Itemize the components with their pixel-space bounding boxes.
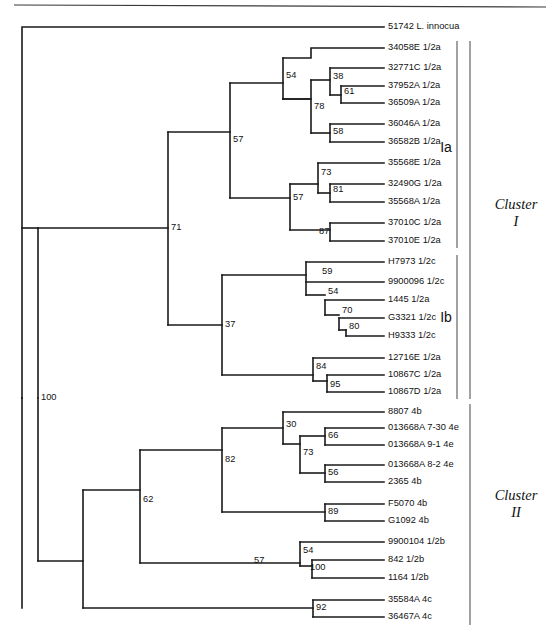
subclade-label-Ia: Ia bbox=[440, 139, 452, 155]
bootstrap-value-3: 78 bbox=[314, 101, 324, 111]
phylogenetic-tree-figure: 51742 L. innocua34058E 1/2a32771C 1/2a37… bbox=[0, 0, 557, 634]
bootstrap-value-27: 100 bbox=[310, 562, 326, 572]
tip-label-t16: H9333 1/2c bbox=[388, 330, 436, 340]
bootstrap-value-21: 73 bbox=[303, 447, 313, 457]
tip-label-t3: 37952A 1/2a bbox=[388, 80, 441, 90]
tip-label-t20: 8807 4b bbox=[388, 406, 422, 416]
tip-label-t4: 36509A 1/2a bbox=[388, 97, 441, 107]
bootstrap-value-2: 61 bbox=[344, 86, 354, 96]
bootstrap-value-25: 62 bbox=[143, 494, 153, 504]
tip-label-t24: 2365 4b bbox=[388, 476, 422, 486]
tip-label-t0: 51742 L. innocua bbox=[388, 21, 460, 31]
tip-label-t22: 013668A 9-1 4e bbox=[388, 439, 454, 449]
tip-label-t25: F5070 4b bbox=[388, 498, 427, 508]
bootstrap-value-28: 57 bbox=[254, 555, 264, 565]
tip-label-t31: 36467A 4c bbox=[388, 611, 432, 621]
bootstrap-value-24: 89 bbox=[328, 506, 338, 516]
tip-label-t19: 10867D 1/2a bbox=[388, 386, 442, 396]
tip-label-t11: 37010E 1/2a bbox=[388, 235, 442, 245]
tip-label-t2: 32771C 1/2a bbox=[388, 62, 442, 72]
tip-label-t21: 013668A 7-30 4e bbox=[388, 422, 459, 432]
tip-label-t15: G3321 1/2c bbox=[388, 312, 436, 322]
bootstrap-value-0: 54 bbox=[286, 70, 296, 80]
tip-label-t30: 35584A 4c bbox=[388, 594, 432, 604]
tip-label-t6: 36582B 1/2a bbox=[388, 136, 442, 146]
tip-label-t9: 35568A 1/2a bbox=[388, 196, 441, 206]
tip-label-t17: 12716E 1/2a bbox=[388, 352, 442, 362]
bootstrap-value-10: 71 bbox=[171, 222, 181, 232]
bootstrap-value-22: 56 bbox=[328, 467, 338, 477]
bootstrap-value-4: 58 bbox=[333, 126, 343, 136]
bootstrap-value-8: 57 bbox=[293, 192, 303, 202]
tip-label-t1: 34058E 1/2a bbox=[388, 42, 442, 52]
bootstrap-value-5: 57 bbox=[233, 134, 243, 144]
bootstrap-value-26: 54 bbox=[303, 545, 313, 555]
tree-canvas: 51742 L. innocua34058E 1/2a32771C 1/2a37… bbox=[0, 0, 557, 634]
tip-label-t26: G1092 4b bbox=[388, 515, 429, 525]
tip-label-t5: 36046A 1/2a bbox=[388, 118, 441, 128]
tip-label-t23: 013668A 8-2 4e bbox=[388, 459, 454, 469]
tip-label-t18: 10867C 1/2a bbox=[388, 369, 442, 379]
bootstrap-value-19: 30 bbox=[286, 419, 296, 429]
tip-label-t7: 35568E 1/2a bbox=[388, 157, 442, 167]
bootstrap-value-17: 95 bbox=[330, 379, 340, 389]
bootstrap-value-1: 38 bbox=[333, 71, 343, 81]
bootstrap-value-16: 84 bbox=[316, 361, 326, 371]
tip-label-t28: 842 1/2b bbox=[388, 554, 424, 564]
bootstrap-value-11: 59 bbox=[322, 266, 332, 276]
bootstrap-value-23: 82 bbox=[225, 454, 235, 464]
tip-label-t14: 1445 1/2a bbox=[388, 294, 430, 304]
bootstrap-value-9: 87 bbox=[319, 226, 329, 236]
bootstrap-value-18: 100 bbox=[41, 392, 57, 402]
bootstrap-value-13: 70 bbox=[342, 305, 352, 315]
bootstrap-value-29: 92 bbox=[316, 602, 326, 612]
subclade-label-Ib: Ib bbox=[440, 309, 452, 325]
cluster-label-word-I: Cluster bbox=[495, 196, 538, 212]
tip-label-t12: H7973 1/2c bbox=[388, 256, 436, 266]
cluster-label-word-II: Cluster bbox=[495, 487, 538, 503]
tip-label-t13: 9900096 1/2c bbox=[388, 276, 445, 286]
bootstrap-value-20: 66 bbox=[328, 430, 338, 440]
tip-label-t29: 1164 1/2b bbox=[388, 572, 429, 582]
bootstrap-value-7: 81 bbox=[333, 184, 343, 194]
tip-label-t8: 32490G 1/2a bbox=[388, 178, 443, 188]
cluster-label-numeral-II: II bbox=[510, 504, 522, 520]
bootstrap-value-12: 54 bbox=[328, 286, 338, 296]
tip-label-t27: 9900104 1/2b bbox=[388, 536, 445, 546]
bootstrap-value-14: 80 bbox=[349, 321, 359, 331]
bootstrap-value-6: 73 bbox=[321, 167, 331, 177]
tip-label-t10: 37010C 1/2a bbox=[388, 217, 442, 227]
bootstrap-value-15: 37 bbox=[225, 319, 235, 329]
